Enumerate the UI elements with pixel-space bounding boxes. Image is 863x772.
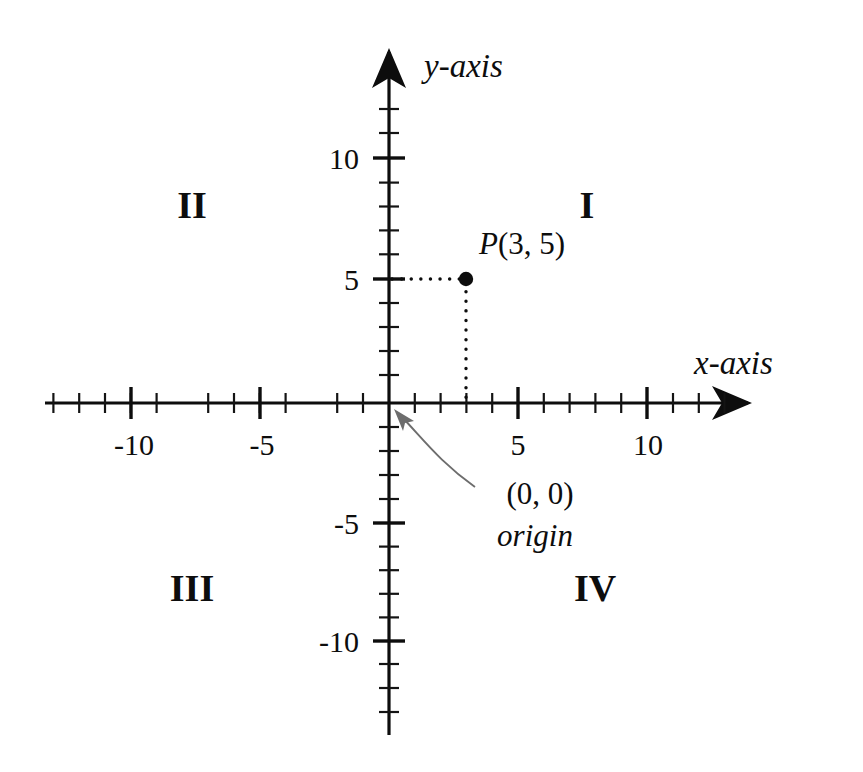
x-tick-label-10: 10 bbox=[633, 428, 663, 461]
y-tick-label-neg5: -5 bbox=[334, 507, 359, 540]
quadrant-label-1: I bbox=[580, 184, 595, 226]
origin-callout-curve bbox=[401, 416, 475, 487]
quadrant-label-2: II bbox=[177, 184, 207, 226]
x-tick-label-neg10: -10 bbox=[114, 428, 154, 461]
quadrant-label-3: III bbox=[170, 567, 214, 609]
point-label: P(3, 5) bbox=[478, 226, 565, 261]
y-axis-label: y-axis bbox=[421, 48, 503, 84]
quadrant-label-4: IV bbox=[574, 567, 617, 609]
y-tick-label-10: 10 bbox=[329, 142, 359, 175]
coordinate-plane-figure: -10 -5 5 10 x-axis bbox=[0, 0, 863, 772]
x-axis-label: x-axis bbox=[693, 345, 773, 381]
origin-callout-group: (0, 0) origin bbox=[394, 409, 574, 553]
origin-word-label: origin bbox=[497, 518, 573, 553]
coordinate-plane-svg: -10 -5 5 10 x-axis bbox=[0, 0, 863, 772]
plotted-point-group: P(3, 5) bbox=[392, 226, 565, 400]
x-axis-group: -10 -5 5 10 x-axis bbox=[45, 345, 773, 461]
y-axis-group: 10 5 -5 -10 y-axis bbox=[319, 48, 503, 735]
point-marker bbox=[459, 272, 473, 286]
origin-coords-label: (0, 0) bbox=[506, 476, 573, 511]
x-tick-label-neg5: -5 bbox=[250, 428, 275, 461]
y-tick-label-neg10: -10 bbox=[319, 625, 359, 658]
x-tick-label-5: 5 bbox=[511, 428, 526, 461]
y-tick-label-5: 5 bbox=[344, 263, 359, 296]
